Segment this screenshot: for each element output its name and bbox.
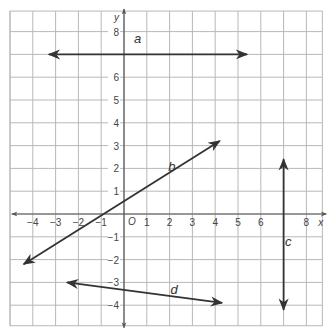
x-tick-label: 1	[144, 217, 150, 228]
y-tick-label: −3	[108, 277, 120, 288]
coordinate-plane: −4−3−2−112345688654321−1−2−3−4 abcd x y …	[0, 0, 331, 331]
x-tick-label: 4	[212, 217, 218, 228]
y-tick-label: 1	[113, 186, 119, 197]
y-tick-label: −1	[108, 232, 120, 243]
y-tick-label: 6	[113, 72, 119, 83]
x-tick-label: 6	[258, 217, 264, 228]
line-d-label: d	[171, 282, 179, 297]
y-tick-label: 4	[113, 118, 119, 129]
y-tick-label: 2	[113, 163, 119, 174]
y-tick-label: −4	[108, 300, 120, 311]
line-c-label: c	[285, 234, 292, 249]
x-axis-label: x	[317, 217, 324, 228]
y-tick-label: 3	[113, 141, 119, 152]
y-tick-label: −2	[108, 255, 120, 266]
y-tick-label: 5	[113, 95, 119, 106]
y-axis-label: y	[113, 12, 120, 23]
x-tick-label: 5	[235, 217, 241, 228]
y-tick-label: 8	[113, 27, 119, 38]
x-tick-label: 8	[304, 217, 310, 228]
background	[0, 0, 331, 331]
x-tick-label: 2	[167, 217, 173, 228]
line-a-label: a	[134, 31, 141, 46]
x-tick-label: −3	[50, 217, 62, 228]
x-tick-label: 3	[190, 217, 196, 228]
x-tick-label: −4	[27, 217, 39, 228]
origin-label: O	[128, 216, 136, 227]
line-b-label: b	[168, 159, 175, 174]
